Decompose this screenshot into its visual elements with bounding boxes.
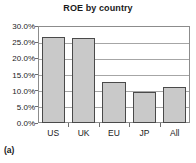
y-tick-label: 5.0% bbox=[0, 102, 35, 111]
bar-us[interactable] bbox=[42, 37, 65, 123]
y-tick-label: 10.0% bbox=[0, 86, 35, 95]
bar-slot bbox=[38, 26, 68, 123]
x-tick-mark bbox=[99, 123, 100, 127]
y-tick-label: 25.0% bbox=[0, 38, 35, 47]
bar-slot bbox=[99, 26, 129, 123]
y-tick-label: 15.0% bbox=[0, 70, 35, 79]
x-tick-label-uk: UK bbox=[68, 128, 98, 139]
x-tick-mark bbox=[160, 123, 161, 127]
x-tick-mark bbox=[68, 123, 69, 127]
bar-eu[interactable] bbox=[102, 82, 125, 123]
bar-slot bbox=[68, 26, 98, 123]
x-tick-mark bbox=[129, 123, 130, 127]
x-tick-label-jp: JP bbox=[129, 128, 159, 139]
figure-caption: (a) bbox=[4, 145, 14, 155]
bar-uk[interactable] bbox=[72, 38, 95, 123]
chart-title: ROE by country bbox=[0, 3, 196, 14]
bar-all[interactable] bbox=[163, 87, 186, 123]
x-axis: USUKEUJPAll bbox=[38, 128, 190, 140]
x-tick-label-eu: EU bbox=[99, 128, 129, 139]
y-axis: 30.0%25.0%20.0%15.0%10.0%5.0%0.0% bbox=[0, 26, 35, 123]
x-tick-label-all: All bbox=[160, 128, 190, 139]
x-tick-label-us: US bbox=[38, 128, 68, 139]
bars-layer bbox=[38, 26, 190, 123]
bar-slot bbox=[160, 26, 190, 123]
bar-jp[interactable] bbox=[133, 92, 156, 123]
chart-figure: ROE by country 30.0%25.0%20.0%15.0%10.0%… bbox=[0, 0, 196, 163]
bar-slot bbox=[129, 26, 159, 123]
y-tick-label: 0.0% bbox=[0, 119, 35, 128]
y-tick-label: 30.0% bbox=[0, 22, 35, 31]
y-tick-label: 20.0% bbox=[0, 54, 35, 63]
